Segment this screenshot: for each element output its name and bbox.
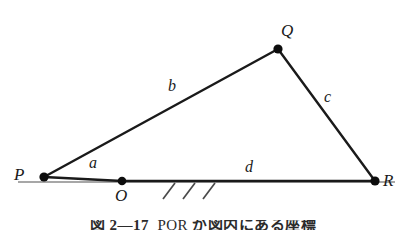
side-label-c: c	[324, 89, 331, 105]
hatch-mark	[203, 183, 215, 199]
segment-a-PO	[44, 177, 122, 181]
vertex-dot-Q	[273, 44, 282, 53]
vertex-label-P: P	[14, 166, 24, 183]
vertex-dot-R	[370, 176, 379, 185]
vertex-label-R: R	[383, 172, 393, 189]
side-label-b: b	[168, 78, 176, 94]
caption-suffix: が図内にある座標	[192, 220, 316, 230]
side-label-d: d	[245, 159, 253, 175]
geometry-diagram-svg	[0, 0, 406, 230]
segment-c-QR	[278, 49, 375, 181]
hatch-mark	[163, 183, 175, 199]
vertex-label-Q: Q	[281, 22, 293, 39]
vertex-dot-O	[118, 177, 127, 186]
side-label-a: a	[89, 155, 97, 171]
vertex-dot-P	[39, 172, 48, 181]
segment-b-PQ	[44, 49, 278, 177]
figure-container: P O Q R a b c d 図 2—17 PQR が図内にある座標	[0, 0, 406, 230]
vertex-label-O: O	[115, 187, 127, 204]
caption-prefix: 図	[90, 220, 106, 230]
hatch-mark	[183, 183, 195, 199]
figure-caption: 図 2—17 PQR が図内にある座標	[0, 220, 406, 230]
caption-overlined: PQR	[157, 220, 188, 230]
caption-number: 2—17	[109, 220, 149, 230]
hatch-marks-group	[163, 183, 215, 199]
figure-caption-strip: 図 2—17 PQR が図内にある座標	[0, 220, 406, 230]
